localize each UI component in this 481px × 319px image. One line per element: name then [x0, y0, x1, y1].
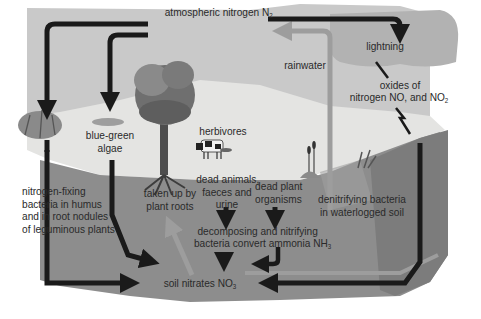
label-text: nitrogen NO, and NO: [350, 91, 445, 103]
label-line: denitrifying bacteria: [316, 193, 408, 206]
label-subscript: 3: [328, 243, 331, 250]
label-taken-up-by-plant-roots: taken up by plant roots: [142, 187, 198, 212]
label-line: bacteria in humus: [22, 198, 110, 211]
label-line: and in root nodules: [22, 210, 110, 223]
label-line: dead plant: [255, 180, 301, 193]
label-rainwater: rainwater: [270, 59, 340, 72]
label-decomposing-line1: decomposing and nitrifying: [197, 225, 306, 238]
label-line: blue-green: [85, 129, 134, 142]
label-text: atmospheric nitrogen N: [165, 6, 270, 18]
label-line: urine: [196, 198, 258, 211]
label-text: bacteria convert ammonia NH: [194, 237, 328, 249]
label-line: plant roots: [142, 200, 198, 213]
label-nitrogen-fixing-bacteria: nitrogen-fixing bacteria in humus and in…: [22, 185, 110, 235]
label-oxides-line1: oxides of: [365, 79, 435, 92]
label-line: faeces and: [196, 186, 258, 199]
label-atmospheric-nitrogen: atmospheric nitrogen N2: [165, 6, 264, 23]
label-line: algae: [85, 142, 134, 155]
label-herbivores: herbivores: [192, 125, 254, 138]
label-line: dead animals,: [196, 173, 258, 186]
label-blue-green-algae: blue-green algae: [85, 129, 134, 154]
label-denitrifying-bacteria: denitrifying bacteria in waterlogged soi…: [316, 193, 408, 218]
label-text: soil nitrates NO: [164, 277, 233, 289]
label-soil-nitrates: soil nitrates NO3: [163, 277, 237, 294]
label-line: in waterlogged soil: [316, 206, 408, 219]
label-oxides-line2: nitrogen NO, and NO2: [350, 91, 449, 108]
label-subscript: 2: [445, 97, 448, 104]
label-lightning: lightning: [354, 40, 416, 53]
nitrogen-cycle-diagram: atmospheric nitrogen N2 lightning oxides…: [0, 0, 481, 319]
label-subscript: 2: [269, 12, 272, 19]
label-line: nitrogen-fixing: [22, 185, 110, 198]
label-dead-animals: dead animals, faeces and urine: [196, 173, 258, 211]
label-subscript: 3: [233, 283, 236, 290]
algae-pond: [92, 118, 124, 126]
label-line: taken up by: [142, 187, 198, 200]
label-decomposing-line2: bacteria convert ammonia NH3: [194, 237, 310, 254]
label-line: organisms: [255, 193, 301, 206]
label-line: of leguminous plants: [22, 223, 110, 236]
label-dead-plant-organisms: dead plant organisms: [255, 180, 301, 205]
